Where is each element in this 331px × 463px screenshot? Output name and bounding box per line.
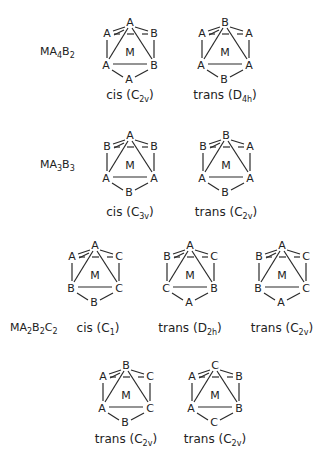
ligand-label-lr: B: [149, 60, 159, 71]
ligand-label-top: B: [121, 360, 131, 371]
ligand-label-lr: C: [301, 283, 311, 294]
ligand-label-center: M: [220, 47, 230, 58]
ligand-label-ul: A: [98, 371, 108, 382]
ligand-label-top: A: [277, 240, 287, 251]
ligand-label-ll: A: [196, 60, 206, 71]
ligand-label-top: C: [210, 360, 220, 371]
ligand-label-bottom: B: [219, 74, 229, 85]
ligand-label-ur: C: [301, 251, 311, 262]
ligand-label-ul: A: [102, 28, 112, 39]
ligand-label-center: M: [125, 160, 135, 171]
octahedron-structure: ABBAABM: [95, 128, 165, 200]
ligand-label-ll: A: [197, 173, 207, 184]
formula-ma2b2c2: MA2B2C2: [10, 321, 58, 336]
ligand-label-bottom: C: [209, 417, 219, 428]
ligand-label-ul: A: [187, 371, 197, 382]
ligand-label-bottom: A: [276, 297, 286, 308]
octahedron-structure: CABABCM: [180, 358, 250, 430]
ligand-label-ur: C: [145, 371, 155, 382]
ligand-label-ll: A: [186, 403, 196, 414]
ligand-label-top: A: [125, 17, 135, 28]
ligand-label-ur: B: [234, 371, 244, 382]
ligand-label-ll: A: [101, 60, 111, 71]
ligand-label-top: B: [220, 17, 230, 28]
ligand-label-bottom: A: [124, 74, 134, 85]
ligand-label-ur: A: [244, 28, 254, 39]
ligand-label-center: M: [185, 270, 195, 281]
octahedron-structure: BACACBM: [91, 358, 161, 430]
ligand-label-ur: C: [114, 251, 124, 262]
ligand-label-ur: B: [149, 141, 159, 152]
formula-ma3b3: MA3B3: [40, 158, 75, 173]
ligand-label-ll: B: [253, 283, 263, 294]
ligand-label-ul: B: [254, 251, 264, 262]
ligand-label-lr: A: [244, 60, 254, 71]
ligand-label-lr: A: [245, 173, 255, 184]
isomer-caption: cis (C2v): [106, 88, 154, 104]
ligand-label-bottom: B: [124, 187, 134, 198]
ligand-label-ul: B: [102, 141, 112, 152]
octahedron-structure: AACBCBM: [60, 238, 130, 310]
ligand-label-bottom: A: [184, 297, 194, 308]
ligand-label-ur: A: [245, 141, 255, 152]
ligand-label-top: A: [185, 240, 195, 251]
ligand-label-ul: B: [198, 141, 208, 152]
octahedron-structure: BAAAABM: [190, 15, 260, 87]
isomer-caption: trans (C2v): [184, 432, 246, 448]
isomer-caption: trans (C2v): [95, 432, 157, 448]
octahedron-structure: ABCBCAM: [247, 238, 317, 310]
ligand-label-center: M: [210, 390, 220, 401]
ligand-label-ur: B: [149, 28, 159, 39]
ligand-label-center: M: [121, 390, 131, 401]
isomer-caption: trans (D4h): [193, 88, 256, 104]
ligand-label-center: M: [277, 270, 287, 281]
ligand-label-ll: A: [101, 173, 111, 184]
ligand-label-top: A: [125, 130, 135, 141]
ligand-label-ur: C: [209, 251, 219, 262]
octahedron-structure: ABCCBAM: [155, 238, 225, 310]
isomer-caption: cis (C1): [77, 321, 120, 337]
ligand-label-ul: A: [197, 28, 207, 39]
isomer-caption: cis (C3v): [106, 205, 154, 221]
ligand-label-ul: B: [162, 251, 172, 262]
ligand-label-ll: A: [97, 403, 107, 414]
ligand-label-bottom: B: [120, 417, 130, 428]
ligand-label-lr: B: [234, 403, 244, 414]
ligand-label-top: A: [90, 240, 100, 251]
ligand-label-top: B: [221, 130, 231, 141]
ligand-label-ll: C: [161, 283, 171, 294]
ligand-label-center: M: [221, 160, 231, 171]
octahedron-structure: AABABAM: [95, 15, 165, 87]
ligand-label-lr: B: [209, 283, 219, 294]
isomer-caption: trans (C2v): [195, 205, 257, 221]
isomer-caption: trans (C2v): [251, 321, 313, 337]
octahedron-structure: BBAAABM: [191, 128, 261, 200]
ligand-label-bottom: B: [220, 187, 230, 198]
formula-ma4b2: MA4B2: [40, 45, 75, 60]
ligand-label-ll: B: [66, 283, 76, 294]
ligand-label-bottom: B: [89, 297, 99, 308]
ligand-label-lr: A: [149, 173, 159, 184]
ligand-label-lr: C: [114, 283, 124, 294]
ligand-label-center: M: [90, 270, 100, 281]
ligand-label-ul: A: [67, 251, 77, 262]
ligand-label-center: M: [125, 47, 135, 58]
ligand-label-lr: C: [145, 403, 155, 414]
isomer-caption: trans (D2h): [158, 321, 221, 337]
